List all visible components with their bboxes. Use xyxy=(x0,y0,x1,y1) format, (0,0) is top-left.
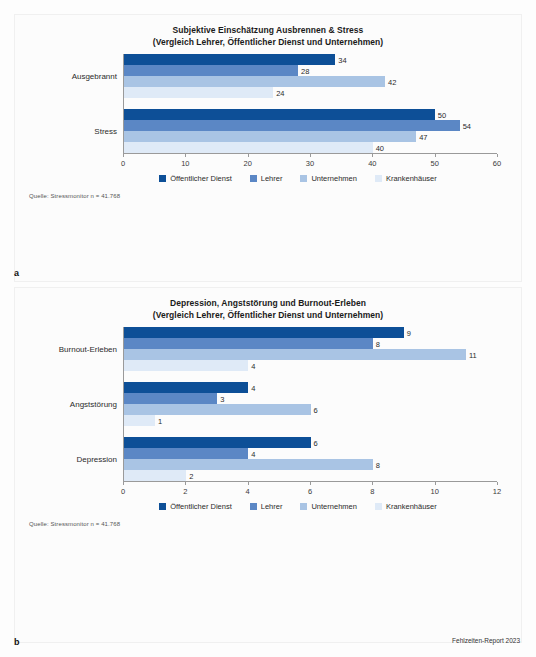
bar xyxy=(124,109,435,120)
bar-group: Depression6482 xyxy=(124,437,497,481)
axis-tick-label: 10 xyxy=(181,159,189,168)
bar-row: 50 xyxy=(124,109,497,120)
legend-label: Unternehmen xyxy=(311,502,356,511)
chart-a-legend: Öffentlicher DienstLehrerUnternehmenKran… xyxy=(15,174,521,183)
chart-a-bars: Ausgebrannt34284224Stress50544740 xyxy=(123,54,497,153)
bar-value-label: 24 xyxy=(273,88,284,97)
report-credit: Fehlzeiten-Report 2023 xyxy=(452,637,520,644)
legend-item: Lehrer xyxy=(250,502,283,511)
bar-row: 2 xyxy=(124,470,497,481)
bar xyxy=(124,349,466,360)
bar xyxy=(124,87,273,98)
bar xyxy=(124,54,335,65)
bar-value-label: 47 xyxy=(416,132,427,141)
axis-tick xyxy=(185,154,186,157)
legend-swatch-icon xyxy=(375,175,382,182)
axis-tick-label: 8 xyxy=(370,487,374,496)
category-label: Depression xyxy=(77,455,117,464)
axis-tick xyxy=(372,482,373,485)
axis-tick xyxy=(248,154,249,157)
legend-item: Unternehmen xyxy=(300,174,356,183)
bar-value-label: 4 xyxy=(248,383,255,392)
bar xyxy=(124,142,373,153)
chart-b-title-line1: Depression, Angststörung und Burnout-Erl… xyxy=(15,298,521,310)
axis-tick-label: 20 xyxy=(243,159,251,168)
chart-a-plot-area: Ausgebrannt34284224Stress50544740 010203… xyxy=(15,54,521,170)
chart-b-title: Depression, Angststörung und Burnout-Erl… xyxy=(15,288,521,321)
legend-label: Unternehmen xyxy=(311,174,356,183)
chart-b-legend: Öffentlicher DienstLehrerUnternehmenKran… xyxy=(15,502,521,511)
bar-value-label: 9 xyxy=(404,328,411,337)
chart-a-x-axis: 0102030405060 xyxy=(123,153,497,170)
bar-row: 8 xyxy=(124,459,497,470)
bar-row: 4 xyxy=(124,448,497,459)
bar-row: 34 xyxy=(124,54,497,65)
bar-row: 1 xyxy=(124,415,497,426)
chart-panel-a: Subjektive Einschätzung Ausbrennen & Str… xyxy=(14,14,522,282)
legend-label: Krankenhäuser xyxy=(386,502,437,511)
axis-tick-label: 10 xyxy=(430,487,438,496)
bar-value-label: 28 xyxy=(298,66,309,75)
legend-swatch-icon xyxy=(250,175,257,182)
legend-label: Öffentlicher Dienst xyxy=(170,502,232,511)
bar-value-label: 42 xyxy=(385,77,396,86)
bar-value-label: 1 xyxy=(155,416,162,425)
axis-tick-label: 6 xyxy=(308,487,312,496)
bar-value-label: 2 xyxy=(186,471,193,480)
bar-row: 54 xyxy=(124,120,497,131)
axis-tick-label: 60 xyxy=(493,159,501,168)
axis-tick-label: 50 xyxy=(430,159,438,168)
group-spacer xyxy=(124,426,497,437)
bar-value-label: 50 xyxy=(435,110,446,119)
bar xyxy=(124,459,373,470)
bar-value-label: 3 xyxy=(217,394,224,403)
bar-row: 24 xyxy=(124,87,497,98)
bar xyxy=(124,360,248,371)
category-label: Burnout-Erleben xyxy=(59,345,117,354)
bar-row: 6 xyxy=(124,404,497,415)
axis-tick-label: 30 xyxy=(306,159,314,168)
axis-tick xyxy=(497,482,498,485)
bar xyxy=(124,120,460,131)
bar xyxy=(124,404,311,415)
legend-swatch-icon xyxy=(250,503,257,510)
chart-b-bars: Burnout-Erleben98114Angststörung4361Depr… xyxy=(123,327,497,481)
bar-group: Ausgebrannt34284224 xyxy=(124,54,497,98)
bar xyxy=(124,437,311,448)
bar xyxy=(124,131,416,142)
legend-item: Unternehmen xyxy=(300,502,356,511)
chart-a-title-line2: (Vergleich Lehrer, Öffentlicher Dienst u… xyxy=(15,37,521,49)
bar-row: 9 xyxy=(124,327,497,338)
bar-row: 4 xyxy=(124,382,497,393)
axis-tick xyxy=(435,154,436,157)
bar xyxy=(124,338,373,349)
group-spacer xyxy=(124,371,497,382)
bar-value-label: 54 xyxy=(460,121,471,130)
legend-swatch-icon xyxy=(159,175,166,182)
bar-value-label: 6 xyxy=(311,438,318,447)
group-spacer xyxy=(124,98,497,109)
chart-panel-b: Depression, Angststörung und Burnout-Erl… xyxy=(14,287,522,643)
legend-item: Lehrer xyxy=(250,174,283,183)
bar-row: 11 xyxy=(124,349,497,360)
legend-swatch-icon xyxy=(375,503,382,510)
bar xyxy=(124,393,217,404)
axis-tick-label: 0 xyxy=(121,159,125,168)
bar-value-label: 6 xyxy=(311,405,318,414)
axis-tick-label: 0 xyxy=(121,487,125,496)
legend-swatch-icon xyxy=(159,503,166,510)
chart-a-title: Subjektive Einschätzung Ausbrennen & Str… xyxy=(15,15,521,48)
panel-letter-b: b xyxy=(14,637,20,647)
bar xyxy=(124,382,248,393)
legend-label: Lehrer xyxy=(261,502,283,511)
bar-value-label: 4 xyxy=(248,361,255,370)
chart-b-plot-area: Burnout-Erleben98114Angststörung4361Depr… xyxy=(15,327,521,498)
bar-row: 4 xyxy=(124,360,497,371)
axis-tick-label: 4 xyxy=(246,487,250,496)
legend-label: Lehrer xyxy=(261,174,283,183)
bar-value-label: 8 xyxy=(373,339,380,348)
category-label: Angststörung xyxy=(70,400,117,409)
bar-row: 6 xyxy=(124,437,497,448)
axis-tick xyxy=(123,482,124,485)
bar-group: Stress50544740 xyxy=(124,109,497,153)
